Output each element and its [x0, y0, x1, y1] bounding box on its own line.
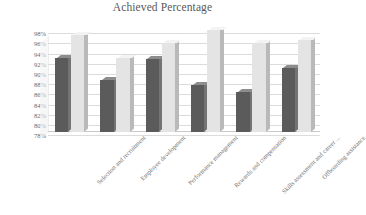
bar-side-face: [311, 37, 315, 132]
bar-front-face: [116, 58, 130, 132]
x-axis-tick-label: Performance management: [186, 134, 238, 186]
bars-layer: [48, 30, 320, 132]
bar-group: [184, 30, 229, 132]
bar[interactable]: [71, 35, 85, 132]
bar[interactable]: [162, 43, 176, 132]
bar-side-face: [175, 40, 179, 132]
bar[interactable]: [146, 59, 160, 132]
bar-side-face: [266, 40, 270, 132]
x-axis-tick-label: Offboarding assistance: [320, 134, 366, 180]
bar-front-face: [100, 80, 114, 132]
bar[interactable]: [116, 58, 130, 132]
x-axis: Selection and recruitmentEmployee develo…: [0, 132, 325, 215]
bar[interactable]: [298, 40, 312, 132]
x-axis-tick-label: Employee development: [139, 134, 187, 182]
bar-front-face: [298, 40, 312, 132]
bar[interactable]: [191, 85, 205, 132]
x-axis-tick-label: Rewards and compensation: [233, 134, 288, 189]
bar-side-face: [220, 27, 224, 132]
bar-front-face: [236, 92, 250, 132]
bar-group: [229, 30, 274, 132]
bar-group: [275, 30, 320, 132]
bar-front-face: [191, 85, 205, 132]
bar-front-face: [71, 35, 85, 132]
bar[interactable]: [55, 58, 69, 132]
bar[interactable]: [100, 80, 114, 132]
bar[interactable]: [236, 92, 250, 132]
bar-side-face: [84, 32, 88, 132]
bar[interactable]: [207, 30, 221, 132]
chart-title: Achieved Percentage: [0, 1, 325, 13]
bar-group: [48, 30, 93, 132]
bar-side-face: [130, 55, 134, 132]
bar-front-face: [162, 43, 176, 132]
bar[interactable]: [252, 43, 266, 132]
y-axis-tick-label: 98%: [34, 30, 46, 37]
bar-front-face: [146, 59, 160, 132]
bar-front-face: [55, 58, 69, 132]
bar[interactable]: [282, 68, 296, 132]
bar-front-face: [252, 43, 266, 132]
bar-group: [139, 30, 184, 132]
bar-front-face: [282, 68, 296, 132]
plot-area: [48, 30, 320, 132]
bar-front-face: [207, 30, 221, 132]
bar-group: [93, 30, 138, 132]
